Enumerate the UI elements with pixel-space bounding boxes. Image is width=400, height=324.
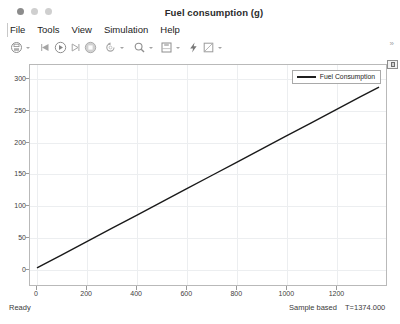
restore-view-icon[interactable] (103, 40, 118, 55)
rewind-icon[interactable] (38, 40, 53, 55)
y-axis-tick-mark (25, 173, 29, 174)
status-simulation-time: T=1374.000 (345, 303, 385, 312)
status-state: Ready (9, 303, 31, 312)
menu-item-help[interactable]: Help (160, 24, 180, 36)
chart-axes[interactable]: Fuel Consumption (29, 64, 387, 286)
stop-icon[interactable] (83, 40, 98, 55)
run-icon[interactable] (53, 40, 68, 55)
y-axis-tick-mark (25, 237, 29, 238)
x-axis-tick-label: 400 (130, 290, 142, 297)
y-axis-tick-mark (25, 110, 29, 111)
step-forward-icon[interactable] (68, 40, 83, 55)
chart-plot-line (30, 65, 386, 285)
toolbar-overflow-icon[interactable]: » (390, 39, 394, 48)
y-axis-tick-label: 150 (0, 170, 26, 177)
annotation-icon[interactable] (201, 40, 216, 55)
annotation-dropdown-caret[interactable] (216, 40, 223, 55)
x-axis-tick-mark (236, 286, 237, 290)
menu-item-tools[interactable]: Tools (37, 24, 59, 36)
chart-legend[interactable]: Fuel Consumption (292, 70, 381, 84)
x-axis-tick-label: 0 (34, 290, 38, 297)
layout-dropdown-caret[interactable] (174, 40, 181, 55)
menu-item-simulation[interactable]: Simulation (104, 24, 148, 36)
x-axis-tick-label: 600 (180, 290, 192, 297)
tool-bar: » (0, 38, 400, 57)
zoom-icon[interactable] (132, 40, 147, 55)
x-axis-tick-mark (136, 286, 137, 290)
scope-window: Fuel consumption (g) File Tools View Sim… (0, 0, 400, 324)
y-axis-tick-label: 100 (0, 202, 26, 209)
x-axis-tick-mark (186, 286, 187, 290)
y-axis-tick-mark (25, 205, 29, 206)
x-axis-tick-mark (86, 286, 87, 290)
legend-label-fuel-consumption: Fuel Consumption (320, 73, 375, 81)
undock-icon[interactable] (387, 60, 398, 69)
status-sample-mode: Sample based (289, 303, 337, 312)
menu-item-file[interactable]: File (10, 24, 25, 36)
menu-item-view[interactable]: View (72, 24, 92, 36)
y-axis-tick-mark (25, 78, 29, 79)
zoom-dropdown-caret[interactable] (147, 40, 154, 55)
x-axis-tick-label: 200 (80, 290, 92, 297)
page-title: Fuel consumption (g) (0, 7, 400, 18)
y-axis-tick-mark (25, 142, 29, 143)
menu-bar: File Tools View Simulation Help (0, 22, 400, 38)
y-axis-tick-label: 300 (0, 74, 26, 81)
toolbar-separator (125, 47, 132, 48)
x-axis-tick-label: 1200 (329, 290, 345, 297)
status-bar: Ready Sample based T=1374.000 (0, 300, 400, 320)
x-axis-tick-mark (336, 286, 337, 290)
legend-swatch-fuel-consumption (297, 76, 316, 78)
toolbar-separator (31, 47, 38, 48)
y-axis-tick-label: 50 (0, 234, 26, 241)
y-axis-tick-label: 200 (0, 138, 26, 145)
y-axis-tick-mark (25, 269, 29, 270)
highlight-signal-icon[interactable] (186, 40, 201, 55)
x-axis-tick-mark (36, 286, 37, 290)
x-axis-tick-label: 800 (230, 290, 242, 297)
layout-icon[interactable] (159, 40, 174, 55)
print-dropdown-caret[interactable] (24, 40, 31, 55)
x-axis-tick-label: 1000 (279, 290, 295, 297)
y-axis-tick-label: 250 (0, 106, 26, 113)
y-axis-tick-label: 0 (0, 265, 26, 272)
restore-view-dropdown-caret[interactable] (118, 40, 125, 55)
title-bar: Fuel consumption (g) (0, 0, 400, 22)
print-icon[interactable] (9, 40, 24, 55)
x-axis-tick-mark (286, 286, 287, 290)
plot-container: Fuel Consumption 05010015020025030002004… (0, 57, 400, 300)
